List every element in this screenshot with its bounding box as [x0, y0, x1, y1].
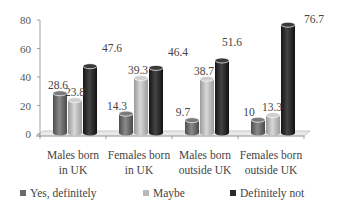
data-label: 14.3 [107, 100, 127, 112]
y-tick-label: 60 [20, 43, 32, 55]
y-tick-label: 80 [20, 14, 32, 26]
bar [68, 98, 82, 136]
bar-chart: 020406080 28.614.39.71023.839.338.713.34… [0, 0, 337, 212]
y-tick-label: 0 [26, 128, 32, 140]
data-label: 46.4 [168, 46, 188, 58]
category-label: Males born [179, 149, 231, 161]
legend-swatch [20, 190, 26, 196]
bar [281, 22, 295, 135]
data-label: 39.3 [128, 64, 148, 76]
data-label: 23.8 [65, 86, 85, 98]
bar [215, 58, 229, 136]
data-label: 38.7 [194, 65, 214, 77]
bar [185, 118, 199, 136]
data-label: 47.6 [102, 42, 122, 54]
legend-item-maybe: Maybe [143, 187, 185, 199]
data-label: 9.7 [176, 106, 191, 118]
category-label: Females born [240, 149, 303, 161]
category-label: outside UK [245, 164, 298, 176]
data-label: 51.6 [222, 36, 242, 48]
data-label: 13.3 [262, 101, 282, 113]
bar [134, 75, 148, 135]
category-label: outside UK [179, 164, 232, 176]
bar [266, 113, 280, 136]
bar [83, 64, 97, 136]
bar [251, 117, 265, 135]
legend-swatch [230, 190, 236, 196]
category-label: in UK [59, 164, 88, 176]
y-tick-label: 20 [20, 100, 32, 112]
bar [149, 65, 163, 135]
category-label: in UK [125, 164, 154, 176]
data-label: 76.7 [304, 13, 324, 25]
category-label: Females born [108, 149, 171, 161]
legend-item-definitely-not: Definitely not [230, 187, 304, 199]
bar [119, 111, 133, 135]
category-label: Males born [47, 149, 99, 161]
y-tick-label: 40 [20, 71, 32, 83]
data-label: 10 [243, 106, 255, 118]
legend-item-yes-definitely: Yes, definitely [20, 187, 97, 199]
legend-swatch [143, 190, 149, 196]
bar [200, 76, 214, 135]
bars [53, 22, 295, 135]
x-axis-categories: Males bornin UKFemales bornin UKMales bo… [47, 149, 302, 176]
legend: Yes, definitely Maybe Definitely not [0, 187, 337, 205]
